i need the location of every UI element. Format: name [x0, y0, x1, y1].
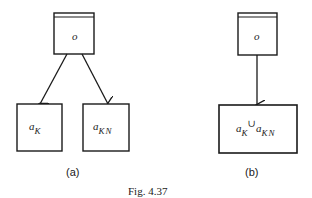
root-node-label: o — [72, 30, 78, 42]
child-node-union: aK∪aKN — [219, 105, 297, 153]
root-node-label: o — [254, 30, 260, 42]
child-node-aK: aK — [17, 104, 62, 151]
node-subscript: K — [34, 126, 42, 136]
root-node-o: o — [238, 13, 277, 55]
figure-4-37: o aK aKN (a) o — [0, 0, 312, 198]
panel-label-a: (a) — [66, 166, 79, 178]
root-node-o: o — [54, 13, 94, 54]
figure-caption: Fig. 4.37 — [128, 185, 168, 197]
node-subscript: KN — [260, 128, 275, 138]
edge-o-to-aKN — [82, 54, 108, 104]
panel-b: o aK∪aKN (b) — [219, 13, 297, 178]
child-node-aKN: aKN — [83, 104, 129, 151]
edge-o-to-aK — [40, 54, 67, 104]
panel-a: o aK aKN (a) — [17, 13, 129, 178]
node-subscript: KN — [98, 126, 113, 136]
node-subscript: K — [241, 128, 249, 138]
panel-label-b: (b) — [245, 166, 258, 178]
union-operator: ∪ — [248, 118, 256, 129]
